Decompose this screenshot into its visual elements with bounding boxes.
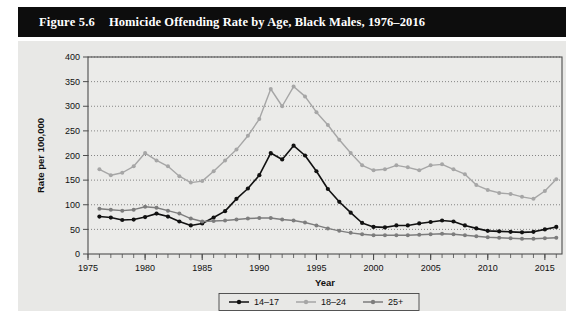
data-point: [474, 183, 478, 187]
legend-label: 18–24: [321, 297, 346, 307]
data-point: [463, 233, 467, 237]
data-point: [314, 110, 318, 114]
figure-number: Figure 5.6: [39, 15, 95, 30]
data-point: [349, 231, 353, 235]
data-point: [97, 167, 101, 171]
data-point: [280, 218, 284, 222]
data-point: [303, 220, 307, 224]
data-point: [440, 162, 444, 166]
data-point: [223, 219, 227, 223]
data-point: [474, 234, 478, 238]
data-point: [531, 230, 535, 234]
data-point: [280, 104, 284, 108]
data-point: [554, 236, 558, 240]
data-point: [166, 209, 170, 213]
data-point: [120, 218, 124, 222]
data-point: [417, 221, 421, 225]
legend-label: 25+: [388, 297, 403, 307]
x-tick-label: 2000: [364, 263, 384, 273]
x-tick-label: 1985: [192, 263, 212, 273]
data-point: [143, 151, 147, 155]
data-point: [189, 223, 193, 227]
data-point: [189, 217, 193, 221]
data-point: [154, 212, 158, 216]
data-point: [269, 216, 273, 220]
data-point: [372, 233, 376, 237]
chart-panel: 050100150200250300350400Rate per 100,000…: [18, 41, 566, 311]
data-point: [257, 117, 261, 121]
data-point: [474, 226, 478, 230]
data-point: [246, 134, 250, 138]
data-point: [463, 172, 467, 176]
data-point: [269, 87, 273, 91]
x-tick-label: 1990: [249, 263, 269, 273]
data-point: [97, 207, 101, 211]
data-point: [303, 153, 307, 157]
legend-label: 14–17: [254, 297, 279, 307]
data-point: [543, 189, 547, 193]
data-point: [132, 217, 136, 221]
data-point: [520, 237, 524, 241]
data-point: [337, 229, 341, 233]
data-point: [543, 236, 547, 240]
data-point: [429, 163, 433, 167]
y-axis: 050100150200250300350400: [65, 52, 88, 259]
data-point: [109, 173, 113, 177]
y-tick-label: 50: [70, 225, 80, 235]
figure-title-bar: Figure 5.6 Homicide Offending Rate by Ag…: [18, 7, 566, 37]
data-point: [155, 158, 159, 162]
data-point: [497, 229, 501, 233]
data-point: [257, 216, 261, 220]
data-point: [314, 169, 318, 173]
data-point: [497, 191, 501, 195]
y-tick-label: 100: [65, 200, 80, 210]
data-point: [383, 225, 387, 229]
data-point: [143, 215, 147, 219]
data-point: [372, 168, 376, 172]
data-point: [143, 205, 147, 209]
data-point: [292, 85, 296, 89]
data-point: [451, 232, 455, 236]
data-point: [223, 209, 227, 213]
x-tick-label: 1975: [78, 263, 98, 273]
data-point: [234, 197, 238, 201]
legend-swatch-marker: [304, 300, 308, 304]
y-tick-label: 200: [65, 151, 80, 161]
data-point: [97, 214, 101, 218]
data-point: [383, 233, 387, 237]
data-point: [486, 188, 490, 192]
data-point: [189, 181, 193, 185]
data-point: [303, 94, 307, 98]
data-point: [120, 209, 124, 213]
data-point: [292, 219, 296, 223]
data-point: [360, 163, 364, 167]
data-point: [120, 171, 124, 175]
data-point: [394, 223, 398, 227]
data-point: [451, 219, 455, 223]
data-point: [257, 173, 261, 177]
data-point: [177, 219, 181, 223]
data-point: [486, 229, 490, 233]
data-point: [509, 192, 513, 196]
data-point: [349, 211, 353, 215]
data-point: [406, 165, 410, 169]
data-point: [417, 168, 421, 172]
data-point: [520, 195, 524, 199]
data-point: [246, 186, 250, 190]
x-tick-label: 2005: [421, 263, 441, 273]
y-tick-label: 250: [65, 126, 80, 136]
data-point: [406, 233, 410, 237]
y-tick-label: 400: [65, 52, 80, 62]
data-point: [132, 164, 136, 168]
legend: 14–1718–2425+: [219, 294, 419, 311]
data-point: [509, 230, 513, 234]
data-point: [177, 174, 181, 178]
data-point: [486, 235, 490, 239]
data-point: [109, 215, 113, 219]
data-point: [326, 226, 330, 230]
data-point: [509, 236, 513, 240]
y-tick-label: 350: [65, 77, 80, 87]
data-point: [155, 206, 159, 210]
legend-swatch-marker: [237, 300, 241, 304]
data-point: [234, 218, 238, 222]
